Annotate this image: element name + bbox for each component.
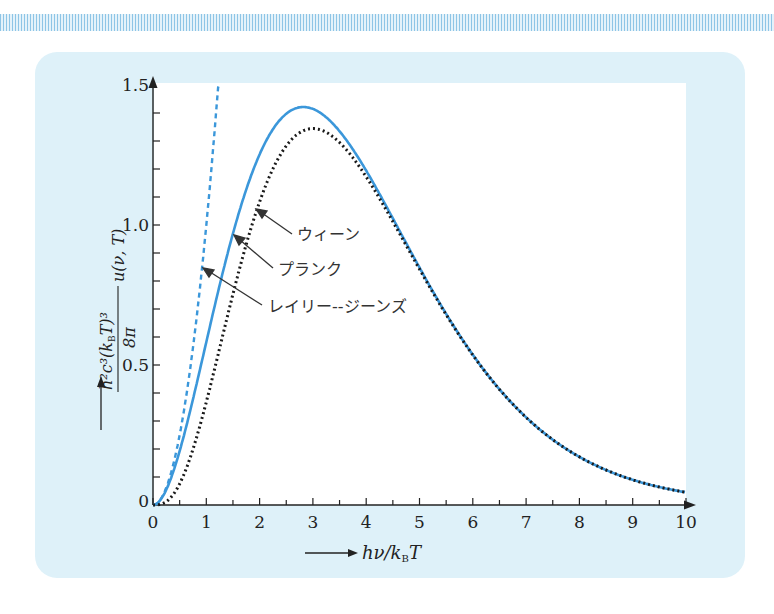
x-tick-label: 1: [201, 512, 212, 532]
x-tick-label: 6: [467, 512, 478, 532]
x-tick-label: 9: [627, 512, 638, 532]
label-wien: ウィーン: [297, 225, 360, 244]
x-axis-label: hν/kBT: [305, 542, 423, 564]
x-tick-label: 7: [521, 512, 532, 532]
x-tick-label: 10: [675, 512, 697, 532]
y-tick-label: 0.5: [122, 355, 149, 375]
x-tick-label: 5: [414, 512, 425, 532]
x-tick-label: 2: [254, 512, 265, 532]
label-planck: プランク: [278, 260, 342, 279]
y-axis-arrow-icon: [149, 76, 158, 88]
x-tick-label: 0: [148, 512, 159, 532]
svg-text:8π: 8π: [120, 327, 139, 348]
x-tick-label: 3: [307, 512, 318, 532]
x-tick-label: 4: [361, 512, 372, 532]
label-rayleigh-jeans: レイリー--ジーンズ: [268, 297, 407, 316]
plot-area: [154, 83, 686, 505]
x-tick-label: 8: [574, 512, 585, 532]
svg-text:h²c³(kBT)³: h²c³(kBT)³: [97, 312, 117, 390]
chart-svg: 012345678910 00.51.01.5 ウィーン プランク レイリー--…: [0, 0, 774, 614]
svg-text:hν/kBT: hν/kBT: [362, 542, 423, 564]
y-tick-label: 0: [138, 491, 149, 511]
y-axis-label-arrow: [97, 376, 105, 430]
svg-text:u(ν, T): u(ν, T): [109, 229, 128, 282]
y-tick-label: 1.5: [122, 75, 149, 95]
